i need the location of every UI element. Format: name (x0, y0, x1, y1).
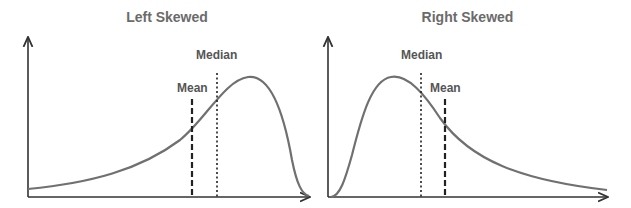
left-mean-label: Mean (177, 81, 208, 95)
right-median-label: Median (401, 48, 442, 62)
left-panel: Left Skewed Median Mean (0, 0, 315, 208)
right-panel: Right Skewed Median Mean (315, 0, 631, 208)
right-chart-title: Right Skewed (405, 9, 530, 25)
right-mean-label: Mean (430, 81, 461, 95)
left-median-label: Median (196, 48, 237, 62)
left-chart-title: Left Skewed (107, 9, 227, 25)
